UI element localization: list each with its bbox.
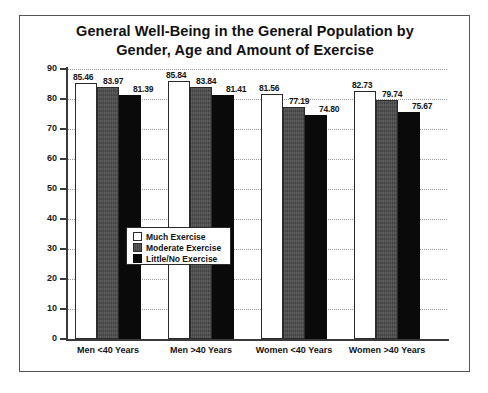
bar-much: [354, 91, 376, 339]
legend-label: Much Exercise: [146, 232, 206, 242]
chart-title-line-1: General Well-Being in the General Popula…: [30, 22, 460, 41]
y-axis-tick-label: 20: [31, 273, 57, 283]
bar-moderate: [190, 87, 212, 339]
bar-value-label: 85.46: [73, 72, 93, 82]
y-axis-tick-label: 70: [31, 123, 57, 133]
y-axis-tick-label: 80: [31, 93, 57, 103]
plot-area: [68, 69, 447, 339]
y-axis-tick-label: 10: [31, 303, 57, 313]
legend-item: Moderate Exercise: [133, 242, 230, 253]
y-axis-tick-label: 60: [31, 153, 57, 163]
bar-moderate: [97, 87, 119, 339]
bar-value-label: 74.80: [319, 104, 339, 114]
x-axis-line: [66, 339, 449, 341]
bar-value-label: 83.97: [103, 76, 123, 86]
bar-little: [212, 95, 234, 339]
bar-value-label: 81.39: [133, 84, 153, 94]
bar-value-label: 85.84: [166, 70, 186, 80]
category-label: Men >40 Years: [156, 345, 246, 355]
bar-moderate: [376, 100, 398, 339]
category-label: Men <40 Years: [63, 345, 153, 355]
bar-value-label: 82.73: [352, 80, 372, 90]
legend-swatch-moderate: [133, 243, 142, 252]
bar-moderate: [283, 107, 305, 339]
bar-little: [119, 95, 141, 339]
chart-title-line-2: Gender, Age and Amount of Exercise: [30, 41, 460, 60]
legend-swatch-much: [133, 232, 142, 241]
legend-label: Little/No Exercise: [146, 254, 217, 264]
category-label: Women >40 Years: [342, 345, 432, 355]
chart-title: General Well-Being in the General Popula…: [30, 22, 460, 60]
bar-value-label: 77.19: [289, 96, 309, 106]
category-label: Women <40 Years: [249, 345, 339, 355]
bar-value-label: 83.84: [196, 76, 216, 86]
legend-label: Moderate Exercise: [146, 243, 221, 253]
bar-value-label: 75.67: [412, 101, 432, 111]
bar-much: [261, 94, 283, 339]
bar-much: [75, 83, 97, 339]
bar-little: [398, 112, 420, 339]
bar-value-label: 81.41: [226, 84, 246, 94]
y-axis-tick-label: 90: [31, 63, 57, 73]
chart-figure: General Well-Being in the General Popula…: [0, 0, 488, 393]
legend-item: Little/No Exercise: [133, 253, 230, 264]
bar-value-label: 79.74: [382, 89, 402, 99]
chart-legend: Much ExerciseModerate ExerciseLittle/No …: [126, 227, 231, 265]
bar-much: [168, 81, 190, 339]
gridline: [68, 69, 447, 70]
legend-swatch-little: [133, 254, 142, 263]
legend-item: Much Exercise: [133, 231, 230, 242]
y-axis-tick-label: 50: [31, 183, 57, 193]
y-axis-tick-label: 30: [31, 243, 57, 253]
y-axis-tick-label: 40: [31, 213, 57, 223]
bar-little: [305, 115, 327, 339]
y-axis-tick-label: 0: [31, 333, 57, 343]
bar-value-label: 81.56: [259, 83, 279, 93]
